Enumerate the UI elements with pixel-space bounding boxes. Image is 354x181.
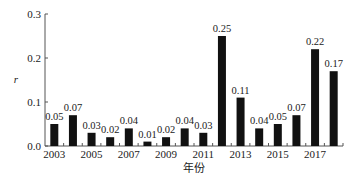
bar: [199, 133, 207, 146]
bar: [106, 137, 114, 146]
x-tick-label: 2007: [118, 148, 141, 160]
bar: [311, 49, 319, 146]
bar-value-label: 0.05: [269, 111, 287, 122]
bar: [292, 115, 300, 146]
bar-value-label: 0.03: [194, 120, 212, 131]
bar-value-label: 0.07: [287, 102, 305, 113]
bar-value-label: 0.04: [176, 115, 195, 126]
bar: [218, 36, 226, 146]
y-tick-label: 0.2: [27, 52, 41, 64]
bar-value-label: 0.11: [232, 85, 250, 96]
bar: [255, 128, 263, 146]
bar-value-label: 0.05: [45, 111, 63, 122]
y-tick-label: 0.0: [27, 140, 41, 152]
bar: [50, 124, 58, 146]
bar-value-label: 0.03: [82, 120, 100, 131]
bar: [88, 133, 96, 146]
bar-value-label: 0.04: [120, 115, 139, 126]
bar: [162, 137, 170, 146]
x-tick-label: 2005: [81, 148, 104, 160]
bar-chart: 0.00.10.20.3 200320052007200920112013201…: [0, 0, 354, 181]
chart-canvas: 0.00.10.20.3 200320052007200920112013201…: [0, 0, 354, 181]
bar-value-label: 0.04: [250, 115, 269, 126]
bar: [181, 128, 189, 146]
x-axis-label: 年份: [183, 161, 205, 174]
bar-value-label: 0.01: [138, 129, 156, 140]
y-tick-label: 0.1: [27, 96, 41, 108]
y-axis-label: r: [14, 73, 19, 85]
bar-value-label: 0.02: [157, 124, 175, 135]
x-tick-label: 2011: [193, 148, 215, 160]
x-tick-label: 2015: [267, 148, 290, 160]
bar: [274, 124, 282, 146]
x-tick-label: 2013: [230, 148, 253, 160]
bar-value-label: 0.02: [101, 124, 119, 135]
bar: [330, 71, 338, 146]
x-tick-label: 2009: [155, 148, 178, 160]
y-axis: 0.00.10.20.3: [27, 8, 48, 152]
bar-value-label: 0.25: [213, 23, 231, 34]
bar: [143, 142, 151, 146]
bar-value-label: 0.07: [64, 102, 82, 113]
bar: [125, 128, 133, 146]
bars: 0.050.070.030.020.040.010.020.040.030.25…: [45, 23, 343, 146]
y-tick-label: 0.3: [27, 8, 41, 20]
x-tick-label: 2017: [304, 148, 327, 160]
bar-value-label: 0.22: [306, 36, 324, 47]
x-tick-label: 2003: [43, 148, 66, 160]
bar: [237, 98, 245, 146]
bar-value-label: 0.17: [325, 58, 343, 69]
bar: [69, 115, 77, 146]
